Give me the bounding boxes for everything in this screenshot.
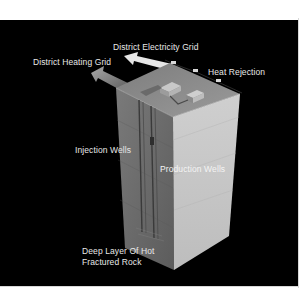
- label-hot-rock-line2: Fractured Rock: [82, 257, 142, 267]
- label-district-heating-grid: District Heating Grid: [33, 57, 111, 67]
- label-injection-wells: Injection Wells: [75, 145, 131, 155]
- label-hot-rock-line1: Deep Layer Of Hot: [82, 246, 155, 256]
- label-production-wells: Production Wells: [160, 164, 225, 174]
- label-heat-rejection: Heat Rejection: [208, 67, 265, 77]
- label-district-electricity-grid: District Electricity Grid: [113, 42, 199, 52]
